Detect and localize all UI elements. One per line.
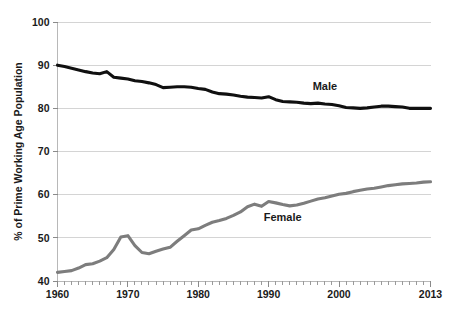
x-axis-ticks [58,281,431,287]
y-tick-label-90: 90 [38,59,50,71]
x-tick-label-2013: 2013 [419,288,443,300]
y-tick-label-50: 50 [38,232,50,244]
x-tick-label-1970: 1970 [116,288,140,300]
x-tick-label-2000: 2000 [327,288,351,300]
gridlines [58,22,431,281]
y-tick-label-100: 100 [32,16,50,28]
x-tick-label-1960: 1960 [46,288,70,300]
y-tick-label-80: 80 [38,102,50,114]
y-tick-label-70: 70 [38,145,50,157]
series-line-male [58,65,431,108]
series-label-male: Male [313,80,337,92]
y-tick-label-60: 60 [38,188,50,200]
series-label-female: Female [264,211,302,223]
x-axis-tick-labels: 196019701980199020002013 [46,288,443,300]
y-axis-tick-labels: 405060708090100 [32,16,58,287]
y-tick-label-40: 40 [38,275,50,287]
x-tick-label-1980: 1980 [187,288,211,300]
series-line-female [58,182,431,273]
x-tick-label-1990: 1990 [257,288,281,300]
chart-container: 405060708090100 196019701980199020002013… [0,0,452,317]
data-series [58,65,431,272]
line-chart: 405060708090100 196019701980199020002013… [0,0,452,317]
y-axis-title: % of Prime Working Age Population [12,62,24,241]
